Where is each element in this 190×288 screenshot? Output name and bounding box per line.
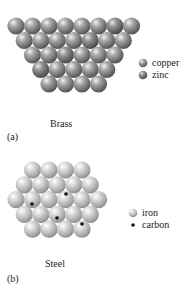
legend-label-iron: iron <box>142 207 158 219</box>
atom-sphere <box>24 221 41 238</box>
atom-sphere <box>73 161 90 178</box>
legend-item-zinc: zinc <box>138 69 179 81</box>
atom-sphere <box>49 176 66 193</box>
steel-caption: Steel <box>45 258 65 269</box>
atom-sphere <box>82 32 99 49</box>
atom-sphere <box>57 161 74 178</box>
atom-sphere <box>40 221 57 238</box>
legend-item-iron: iron <box>128 207 169 219</box>
atom-sphere <box>98 32 115 49</box>
atom-sphere <box>7 17 24 34</box>
atom-sphere <box>49 32 66 49</box>
atom-sphere <box>49 61 66 78</box>
atom-sphere <box>90 17 107 34</box>
atom-sphere <box>65 176 82 193</box>
atom-sphere <box>40 17 57 34</box>
panel-label-a: (a) <box>7 131 18 142</box>
atom-sphere <box>49 206 66 223</box>
legend-item-copper: copper <box>138 57 179 69</box>
atom-sphere <box>73 75 90 92</box>
atom-sphere <box>106 17 123 34</box>
atom-sphere <box>40 161 57 178</box>
atom-sphere <box>106 46 123 63</box>
atom-sphere <box>73 191 90 208</box>
atom-sphere <box>32 176 49 193</box>
atom-sphere <box>65 61 82 78</box>
iron-sphere-icon <box>128 208 138 218</box>
atom-sphere <box>90 46 107 63</box>
atom-sphere <box>40 46 57 63</box>
brass-panel: copper zinc Brass (a) <box>0 0 190 144</box>
atom-sphere <box>16 32 33 49</box>
atom-sphere <box>16 176 33 193</box>
legend-label-carbon: carbon <box>142 219 169 231</box>
steel-panel: iron carbon Steel (b) <box>0 144 190 288</box>
panel-label-b: (b) <box>7 273 19 284</box>
atom-sphere <box>73 46 90 63</box>
brass-caption: Brass <box>50 118 72 129</box>
legend-item-carbon: carbon <box>128 219 169 231</box>
atom-sphere <box>7 191 24 208</box>
atom-sphere <box>32 32 49 49</box>
legend-label-zinc: zinc <box>152 69 169 81</box>
steel-legend: iron carbon <box>128 207 169 231</box>
atom-sphere <box>82 176 99 193</box>
atom-sphere <box>90 75 107 92</box>
atom-sphere <box>73 17 90 34</box>
brass-legend: copper zinc <box>138 57 179 81</box>
atom-sphere <box>57 17 74 34</box>
atom-sphere <box>40 191 57 208</box>
atom-sphere <box>65 206 82 223</box>
atom-sphere <box>16 206 33 223</box>
zinc-sphere-icon <box>138 70 148 80</box>
atom-sphere <box>65 32 82 49</box>
atom-sphere <box>32 206 49 223</box>
carbon-dot-icon <box>128 220 138 230</box>
atom-sphere <box>24 17 41 34</box>
legend-label-copper: copper <box>152 57 179 69</box>
atom-sphere <box>98 61 115 78</box>
atom-sphere <box>57 46 74 63</box>
atom-sphere <box>82 206 99 223</box>
atom-sphere <box>115 32 132 49</box>
atom-sphere <box>57 221 74 238</box>
atom-sphere <box>123 17 140 34</box>
atom-sphere <box>57 75 74 92</box>
atom-sphere <box>24 161 41 178</box>
atom-sphere <box>32 61 49 78</box>
atom-sphere <box>82 61 99 78</box>
copper-sphere-icon <box>138 58 148 68</box>
atom-sphere <box>24 46 41 63</box>
atom-sphere <box>90 191 107 208</box>
atom-sphere <box>40 75 57 92</box>
